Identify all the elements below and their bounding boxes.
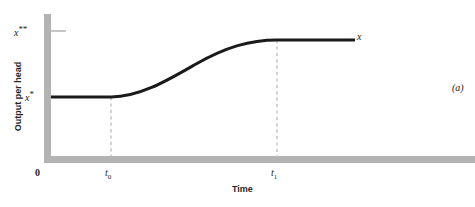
y-axis-title: Output per head	[14, 47, 23, 147]
output-per-head-curve	[51, 40, 355, 97]
curve-end-label: x	[357, 32, 361, 42]
x-axis-label-t0: t0	[105, 168, 111, 181]
plot-area	[0, 0, 475, 207]
y-axis-label-x-star-star: x**	[14, 25, 27, 38]
panel-label: (a)	[452, 83, 464, 93]
x-axis-title: Time	[232, 185, 253, 194]
y-axis-label-x-star: x*	[25, 90, 34, 103]
figure-panel: x** x* x 0 t0 t1 Time Output per head (a…	[0, 0, 475, 207]
x-axis-origin-label: 0	[35, 168, 40, 178]
x-axis-label-t1: t1	[271, 168, 277, 181]
